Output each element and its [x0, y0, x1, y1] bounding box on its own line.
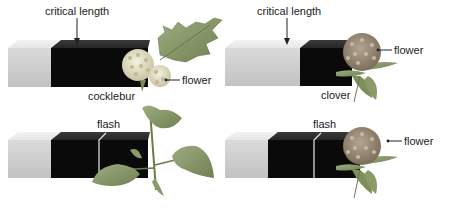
critical-length-label: critical length	[257, 5, 321, 17]
flash-label: flash	[97, 118, 120, 130]
plant-name-label: clover	[321, 89, 350, 101]
light-period-top	[225, 40, 310, 48]
flash-label: flash	[313, 118, 336, 130]
flower-label: flower	[404, 135, 433, 147]
dark-period-top	[51, 40, 150, 48]
light-period-bar	[225, 140, 268, 178]
critical-length-label: critical length	[45, 5, 109, 17]
flower-label: flower	[394, 44, 423, 56]
panel-clover-critical	[225, 18, 398, 102]
cocklebur-leaf	[158, 18, 222, 62]
flower-label: flower	[182, 74, 211, 86]
plant-name-label: cocklebur	[88, 90, 135, 102]
light-period-bar	[225, 48, 300, 86]
light-period-bar	[8, 48, 51, 87]
panel-clover-flash	[225, 127, 402, 198]
light-period-bar	[8, 140, 51, 178]
photoperiod-diagram	[0, 0, 450, 212]
